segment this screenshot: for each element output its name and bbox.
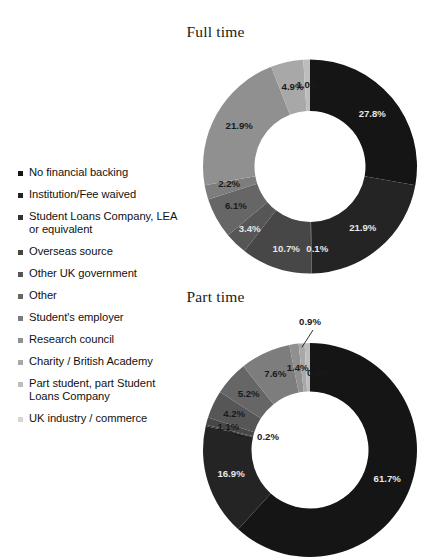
slice-percentage-label: 21.9% — [226, 120, 254, 131]
slice-percentage-label: 0.1% — [306, 243, 328, 254]
slice-percentage-label: 7.6% — [264, 368, 286, 379]
part-time-donut: 61.7%16.9%0.2%1.1%4.2%5.2%7.6%1.4%0.9%0.… — [0, 300, 431, 560]
full-time-donut-svg: 27.8%21.9%0.1%10.7%3.4%6.1%2.2%21.9%4.9%… — [0, 0, 431, 300]
slice-percentage-label: 3.4% — [239, 223, 261, 234]
pie-chart-figure: No financial backingInstitution/Fee waiv… — [0, 0, 431, 560]
slice-percentage-label: 6.1% — [225, 200, 247, 211]
full-time-donut: 27.8%21.9%0.1%10.7%3.4%6.1%2.2%21.9%4.9%… — [0, 0, 431, 300]
slice-percentage-label: 0.2% — [257, 431, 279, 442]
slice-percentage-label: 61.7% — [374, 473, 402, 484]
slice-percentage-label: 27.8% — [359, 108, 387, 119]
slice-percentage-label: 1.4% — [287, 362, 309, 373]
slice-percentage-label: 16.9% — [217, 468, 245, 479]
slice-percentage-label: 5.2% — [238, 388, 260, 399]
slice-percentage-label: 1.0% — [297, 79, 319, 90]
slice-percentage-label: 21.9% — [349, 222, 377, 233]
slice-percentage-label: 1.1% — [217, 421, 239, 432]
donut-slice[interactable] — [310, 60, 417, 186]
slice-percentage-label: 4.2% — [223, 408, 245, 419]
slice-percentage-label: 2.2% — [218, 178, 240, 189]
slice-percentage-label: 10.7% — [273, 243, 301, 254]
part-time-donut-svg: 61.7%16.9%0.2%1.1%4.2%5.2%7.6%1.4%0.9%0.… — [0, 300, 431, 560]
slice-percentage-label: 0.8% — [307, 367, 329, 378]
slice-percentage-label: 0.9% — [299, 316, 321, 327]
